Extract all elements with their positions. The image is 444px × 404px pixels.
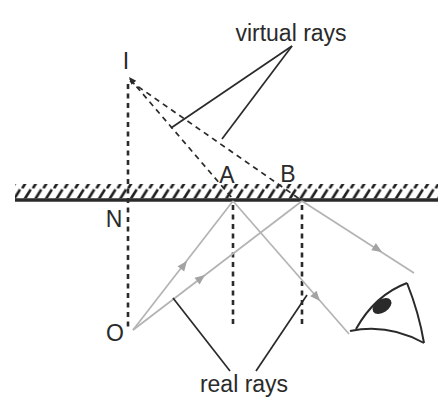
object-point-label: O bbox=[106, 320, 124, 346]
point-b-label: B bbox=[280, 161, 295, 187]
virtual-rays-label: virtual rays bbox=[235, 20, 346, 46]
eye-icon bbox=[350, 283, 424, 343]
real-rays-label: real rays bbox=[200, 371, 288, 397]
ray-diagram: I N O A B virtual rays real rays bbox=[0, 0, 444, 404]
reflected-ray-2-arrowhead-icon bbox=[371, 243, 384, 255]
real-rays-pointer-1 bbox=[173, 298, 230, 371]
reflected-ray-2 bbox=[302, 201, 414, 273]
real-rays-pointer-2 bbox=[256, 295, 307, 371]
virtual-rays-pointer-1 bbox=[171, 46, 292, 128]
virtual-rays-pointer-2 bbox=[222, 46, 292, 139]
point-a-label: A bbox=[219, 162, 235, 188]
real-rays-group bbox=[133, 201, 414, 334]
normal-foot-label: N bbox=[106, 206, 123, 232]
image-point-label: I bbox=[123, 48, 129, 74]
